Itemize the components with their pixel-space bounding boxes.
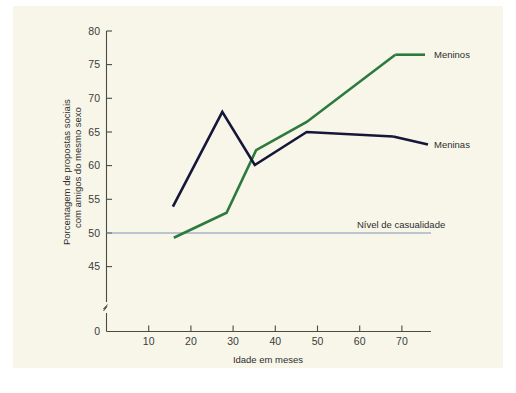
y-tick-label-65: 65 <box>88 126 100 138</box>
y-tick-label-55: 55 <box>88 193 100 205</box>
y-tick-label-80: 80 <box>88 25 100 37</box>
y-axis-title: Porcentagem de propostas sociais com ami… <box>61 99 83 245</box>
y-tick-label-50: 50 <box>88 227 100 239</box>
y-axis-title-line1: Porcentagem de propostas sociais <box>61 99 72 245</box>
series-leader-meninas <box>393 137 428 145</box>
figure-container: 80 75 70 65 60 55 50 45 0 10 20 30 40 50 <box>0 0 516 393</box>
y-axis-title-line2: com amigos do mesmo sexo <box>72 107 83 228</box>
y-axis <box>104 31 108 332</box>
x-tick-label-60: 60 <box>354 335 366 347</box>
series-label-meninos: Meninos <box>434 49 470 60</box>
figure-caption-strip <box>0 368 516 393</box>
y-tick-label-75: 75 <box>88 58 100 70</box>
y-tick-label-60: 60 <box>88 159 100 171</box>
x-tick-labels: 10 20 30 40 50 60 70 <box>143 335 408 347</box>
x-tick-label-30: 30 <box>227 335 239 347</box>
x-tick-label-50: 50 <box>312 335 324 347</box>
line-chart: 80 75 70 65 60 55 50 45 0 10 20 30 40 50 <box>0 0 516 393</box>
x-axis-title: Idade em meses <box>233 354 303 365</box>
y-tick-marks <box>107 31 113 267</box>
x-tick-label-10: 10 <box>143 335 155 347</box>
y-tick-label-0: 0 <box>94 325 100 337</box>
x-tick-label-40: 40 <box>269 335 281 347</box>
x-tick-marks <box>149 326 402 332</box>
series-line-meninas <box>173 112 393 207</box>
y-tick-label-45: 45 <box>88 260 100 272</box>
x-tick-label-70: 70 <box>396 335 408 347</box>
reference-line-label: Nível de casualidade <box>357 219 445 230</box>
series-label-meninas: Meninas <box>434 139 470 150</box>
x-tick-label-20: 20 <box>185 335 197 347</box>
y-tick-label-70: 70 <box>88 92 100 104</box>
y-axis-break-icon <box>104 305 108 312</box>
y-tick-labels: 80 75 70 65 60 55 50 45 0 <box>88 25 100 338</box>
